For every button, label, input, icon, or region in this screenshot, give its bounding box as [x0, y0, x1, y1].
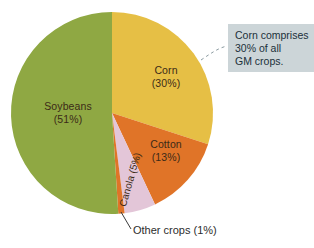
pie-label-corn-name: Corn [154, 64, 177, 76]
pie-label-soybeans-name: Soybeans [44, 100, 92, 112]
pie-label-other-crops: Other crops (1%) [133, 224, 217, 236]
corn-callout-connector [201, 46, 227, 60]
corn-callout-box: Corn comprises 30% of all GM crops. [228, 24, 314, 72]
pie-label-cotton-name: Cotton [150, 138, 182, 150]
corn-callout-line-1: Corn comprises [235, 29, 314, 42]
pie-chart-figure: Soybeans (51%) Corn (30%) Cotton (13%) C… [0, 0, 314, 248]
corn-callout-line-3: GM crops. [235, 55, 314, 68]
pie-label-corn: Corn (30%) [133, 64, 199, 89]
pie-label-corn-percent: (30%) [133, 77, 199, 90]
pie-label-soybeans-percent: (51%) [26, 113, 110, 126]
corn-callout-line-2: 30% of all [235, 42, 314, 55]
pie-label-soybeans: Soybeans (51%) [26, 100, 110, 125]
